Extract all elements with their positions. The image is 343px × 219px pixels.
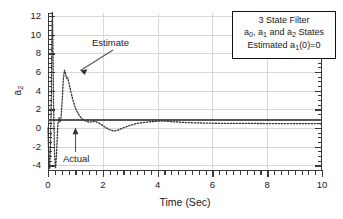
- annotation-estimate: Estimate: [92, 38, 129, 48]
- annotation-actual: Actual: [63, 154, 89, 164]
- legend-box: 3 State Filter a0, a1 and a2 States Esti…: [232, 11, 336, 59]
- legend-line-3: Estimated a1(0)=0: [237, 40, 331, 54]
- legend-line-2: a0, a1 and a2 States: [237, 27, 331, 41]
- legend-line-1: 3 State Filter: [237, 15, 331, 27]
- chart-figure: -4-20246810120246810 Estimate Actual 3 S…: [0, 0, 343, 219]
